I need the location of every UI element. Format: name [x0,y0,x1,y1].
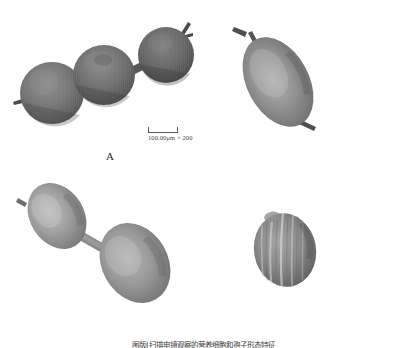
micrograph-image-c [0,168,203,335]
figure-panel-d: 100.00μm × 200 D [204,168,407,335]
figure-panel-b: 100.00μm × 200 B [204,0,407,167]
scale-bar-line-a [148,128,178,133]
figure-sheet: 100.00μm × 200 A [0,0,407,348]
figure-panel-a: 100.00μm × 200 A [0,0,203,167]
micrograph-image-d [204,168,407,335]
panel-letter-a: A [100,150,120,162]
scale-bar-a: 100.00μm × 200 [148,128,192,142]
scale-bar-label-a: 100.00μm × 200 [148,134,192,142]
micrograph-image-b [204,0,407,167]
figure-panel-c: 100.00μm × 200 C [0,168,203,335]
figure-caption: 图版Ⅰ 扫描电镜观察的营养细胞和孢子形态特征 [0,340,407,348]
